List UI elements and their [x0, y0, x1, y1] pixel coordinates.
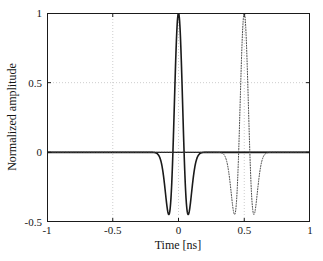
figure-canvas: 1 0.5 0 -0.5 -1 -0.5 0 0.5 1 Time [ns] N…: [0, 0, 323, 261]
x-tick-label-0: 0: [176, 225, 182, 236]
y-tick-label-0: 0: [37, 147, 43, 158]
x-tick-label-0_5: 0.5: [237, 225, 251, 236]
y-tick-label-0_5: 0.5: [28, 77, 42, 88]
gridlines: [47, 13, 310, 222]
y-tick-label-1: 1: [37, 8, 43, 19]
x-tick-label-neg0_5: -0.5: [104, 225, 121, 236]
x-axis-title: Time [ns]: [155, 238, 202, 253]
y-axis-title: Normalized amplitude: [5, 63, 20, 171]
y-tick-label-neg0_5: -0.5: [25, 217, 42, 228]
x-tick-label-1: 1: [307, 225, 313, 236]
plot-area: [47, 13, 310, 222]
x-tick-label-neg1: -1: [42, 225, 51, 236]
chart-plot: [47, 13, 310, 222]
